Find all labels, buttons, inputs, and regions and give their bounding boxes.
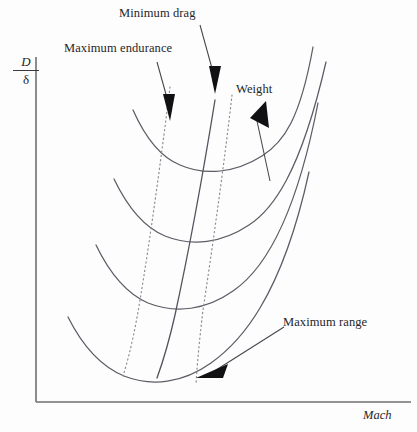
x-axis-label: Mach xyxy=(363,408,391,423)
figure-canvas xyxy=(0,0,417,432)
maximum-endurance-locus xyxy=(123,87,170,376)
annotation-label-maximum-range: Maximum range xyxy=(283,316,367,330)
drag-vs-mach-figure: Minimum drag Maximum endurance Weight Ma… xyxy=(0,0,417,432)
y-axis-label-fraction-bar xyxy=(13,70,39,71)
maximum-endurance-arrowhead xyxy=(163,94,175,121)
minimum-drag-arrowhead xyxy=(209,66,221,94)
y-axis-label: D δ xyxy=(11,55,41,86)
annotation-label-maximum-endurance: Maximum endurance xyxy=(64,42,172,56)
drag-curve-weight-4 xyxy=(68,172,309,382)
annotation-label-minimum-drag: Minimum drag xyxy=(119,7,196,21)
maximum-range-arrowhead xyxy=(196,364,228,378)
maximum-range-locus xyxy=(196,95,232,384)
drag-curve-weight-2 xyxy=(114,62,326,242)
annotation-label-weight: Weight xyxy=(236,83,272,97)
minimum-drag-locus xyxy=(157,100,215,378)
minimum-drag-leader-line xyxy=(200,25,213,72)
y-axis-label-numerator: D xyxy=(11,55,41,69)
maximum-endurance-leader-line xyxy=(157,62,167,98)
weight-arrowhead xyxy=(250,101,269,128)
y-axis-label-denominator: δ xyxy=(11,72,41,86)
drag-curve-weight-1 xyxy=(133,47,313,171)
